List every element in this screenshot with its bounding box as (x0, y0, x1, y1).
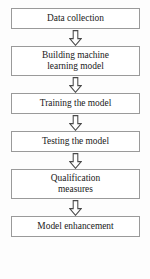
hollow-down-arrow-icon (69, 115, 82, 131)
flow-node-label: Qualification (51, 173, 100, 184)
flow-node-label: measures (58, 184, 93, 195)
flow-node-label: Training the model (40, 98, 112, 109)
hollow-down-arrow-icon (69, 153, 82, 169)
flow-node-label: Building machine (42, 50, 109, 61)
flow-connector-3 (11, 114, 140, 131)
hollow-down-arrow-icon (69, 77, 82, 93)
flow-node-data-collection: Data collection (11, 8, 140, 29)
flow-connector-2 (11, 76, 140, 93)
flow-connector-4 (11, 152, 140, 169)
hollow-down-arrow-icon (69, 200, 82, 216)
hollow-down-arrow-icon (69, 30, 82, 46)
flow-node-training: Training the model (11, 93, 140, 114)
flow-node-label: Testing the model (42, 136, 109, 147)
flow-node-testing: Testing the model (11, 131, 140, 152)
flow-node-label: Model enhancement (37, 221, 113, 232)
flow-connector-5 (11, 199, 140, 216)
flow-node-qualification: Qualification measures (11, 169, 140, 199)
flow-connector-1 (11, 29, 140, 46)
flow-node-label: learning model (47, 61, 104, 72)
flow-node-label: Data collection (47, 13, 104, 24)
flowchart-diagram: Data collection Building machine learnin… (0, 0, 150, 279)
flow-node-building-model: Building machine learning model (11, 46, 140, 76)
flow-node-enhancement: Model enhancement (11, 216, 140, 237)
